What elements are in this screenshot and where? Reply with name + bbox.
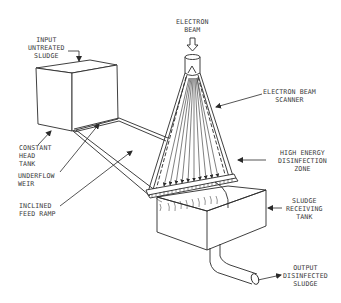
label-input-untreated-sludge: INPUT UNTREATED SLUDGE: [28, 36, 65, 60]
label-sludge-receiving-tank: SLUDGE RECEIVING TANK: [286, 197, 323, 221]
sludge-receiving-tank: [157, 186, 266, 250]
constant-head-tank-arrow: [38, 131, 51, 145]
label-high-energy-disinfection-zone: HIGH ENERGY DISINFECTION ZONE: [278, 149, 327, 173]
label-constant-head-tank: CONSTANT HEAD TANK: [19, 144, 52, 168]
label-underflow-weir: UNDERFLOW WEIR: [18, 172, 55, 188]
constant-head-tank: [36, 60, 118, 131]
label-electron-beam: ELECTRON BEAM: [176, 18, 209, 34]
label-electron-beam-scanner: ELECTRON BEAM SCANNER: [263, 88, 316, 104]
high-energy-disinfection-zone: [146, 174, 238, 198]
label-output-disinfected-sludge: OUTPUT DISINFECTED SLUDGE: [283, 264, 328, 288]
electron-beam-source: [185, 55, 200, 76]
output-arrow: [258, 275, 281, 280]
electron-beam-arrow-icon: [187, 38, 198, 51]
input-sludge-arrow: [68, 51, 79, 61]
label-inclined-feed-ramp: INCLINED FEED RAMP: [19, 202, 56, 218]
inclined-feed-ramp: [73, 118, 168, 196]
output-pipe: [210, 244, 260, 285]
electron-beam-scanner: [148, 73, 233, 193]
scanner-arrow: [216, 94, 262, 107]
